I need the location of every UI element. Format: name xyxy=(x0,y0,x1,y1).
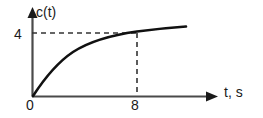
x-axis-arrow-icon xyxy=(206,92,218,102)
x-tick-label-8: 8 xyxy=(131,98,139,112)
x-axis-label: t, s xyxy=(224,85,243,99)
graph-figure: c(t) t, s 4 0 8 xyxy=(0,0,263,118)
curve-ct xyxy=(33,27,186,97)
origin-label: 0 xyxy=(26,98,34,112)
y-axis-label: c(t) xyxy=(36,5,56,19)
y-tick-label-4: 4 xyxy=(14,27,22,41)
